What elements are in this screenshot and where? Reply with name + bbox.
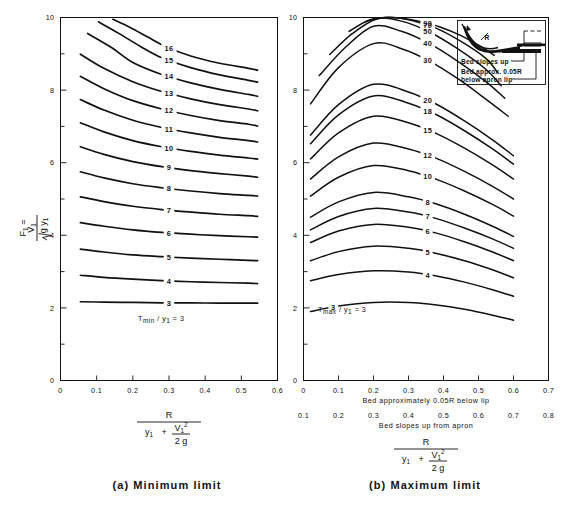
panel-a-xlabel: R y1 + V12 2 g	[137, 410, 201, 446]
curve-label: 4	[167, 277, 172, 286]
panel-a-ylabel-fraction: V1 g y1	[26, 215, 52, 241]
xtick-label-lower: 0.7	[508, 411, 519, 420]
panel-b-family-label: Tmax / y1 = 3	[318, 305, 366, 315]
curve-label: 10	[165, 144, 174, 153]
xlabel-R-b: R	[423, 437, 430, 447]
ylabel-gy-sub: 1	[42, 217, 49, 221]
xtick-label-lower: 0.2	[333, 411, 344, 420]
xtick-label: 0.1	[91, 386, 102, 395]
curve-label: 7	[167, 206, 171, 215]
xlabel-R: R	[166, 410, 173, 420]
curve-label: 4	[426, 271, 431, 280]
ylabel-gy: g y	[38, 221, 48, 234]
panel-a-curve-labels: 345678910111213141516	[165, 44, 174, 308]
curve-label: 14	[165, 72, 174, 81]
ytick-label: 2	[50, 304, 54, 313]
ytick-label: 6	[50, 158, 54, 167]
curve-label: 12	[165, 106, 174, 115]
ytick-label: 8	[50, 86, 54, 95]
panel-b: 0246810 00.10.20.30.40.50.60.7 0.10.20.3…	[289, 13, 554, 491]
xtick-label: 0.4	[200, 386, 211, 395]
xtick-label-upper: 0.6	[508, 386, 519, 395]
xtick-label-lower: 0.3	[368, 411, 379, 420]
svg-text:+: +	[418, 454, 423, 464]
xtick-label: 0.3	[163, 386, 174, 395]
svg-text:V12: V12	[174, 421, 188, 434]
panel-a-xtick-labels: 00.10.20.30.40.50.6	[58, 386, 283, 395]
figure-svg: 0246810 00.10.20.30.40.50.6 345678910111…	[0, 0, 565, 516]
curve-label: 15	[165, 56, 174, 65]
xtick-label-upper: 0.4	[438, 386, 449, 395]
curve-label: 3	[167, 299, 171, 308]
ytick-label: 0	[293, 376, 297, 385]
curve-label: 8	[426, 198, 430, 207]
panel-b-caption: (b) Maximum limit	[369, 479, 481, 491]
panel-b-xtick-labels-lower: 0.10.20.30.40.50.60.70.8	[298, 411, 554, 420]
xtick-label-lower: 0.5	[438, 411, 449, 420]
inset-leader-1	[511, 53, 524, 61]
curve	[311, 84, 514, 156]
svg-text:2 g: 2 g	[175, 436, 188, 446]
curve	[311, 165, 514, 216]
ytick-label: 2	[293, 304, 297, 313]
curve-label: 18	[423, 107, 432, 116]
curve-label: 6	[167, 229, 171, 238]
curve-label: 30	[423, 56, 432, 65]
inset-line2: Bed approx. 0.05R	[461, 68, 522, 76]
curve-label: 40	[423, 39, 432, 48]
ytick-label: 6	[293, 158, 297, 167]
ytick-label: 0	[50, 376, 54, 385]
xtick-label-upper: 0.5	[473, 386, 484, 395]
panel-b-axis-caption-upper: Bed approximately 0.05R below lip	[362, 396, 489, 405]
panel-a: 0246810 00.10.20.30.40.50.6 345678910111…	[18, 13, 283, 491]
xtick-label-upper: 0.7	[543, 386, 554, 395]
svg-text:+: +	[161, 427, 166, 437]
xtick-label-lower: 0.6	[473, 411, 484, 420]
panel-b-xtick-labels-upper: 00.10.20.30.40.50.60.7	[301, 386, 554, 395]
svg-text:g y1: g y1	[38, 217, 49, 233]
xtick-label-lower: 0.8	[543, 411, 554, 420]
panel-b-inset: R Bed slopes up Bed approx. 0.05R below …	[458, 21, 546, 85]
ylabel-V-sub: 1	[30, 223, 37, 227]
xtick-label-upper: 0.2	[368, 386, 379, 395]
xtick-label-lower: 0.4	[403, 411, 414, 420]
ytick-label: 8	[293, 86, 297, 95]
svg-text:y1: y1	[145, 427, 154, 438]
panel-a-family-label: Tmin / y1 = 3	[138, 314, 185, 324]
curve	[311, 271, 514, 297]
curve-label: 5	[167, 253, 171, 262]
curve-label: 10	[423, 172, 432, 181]
inset-line3: below apron lip	[461, 76, 512, 84]
curve	[311, 116, 514, 179]
panel-a-caption: (a) Minimum limit	[112, 479, 221, 491]
xtick-label-upper: 0.1	[333, 386, 344, 395]
curve-label: 11	[165, 125, 173, 134]
inset-apron	[502, 49, 541, 53]
xtick-label: 0.2	[127, 386, 138, 395]
ylabel-eq: =	[18, 220, 28, 225]
inset-line1: Bed slopes up	[461, 58, 509, 66]
panel-b-axis-caption-lower: Bed slopes up from apron	[379, 421, 473, 430]
curve-label: 9	[167, 163, 171, 172]
xtick-label: 0.6	[272, 386, 283, 395]
curve	[311, 96, 514, 165]
curve-label: 90	[423, 19, 432, 28]
curve-label: 6	[426, 227, 430, 236]
panel-a-ytick-labels: 0246810	[46, 13, 55, 385]
svg-text:2 g: 2 g	[432, 463, 445, 473]
curve-label: 12	[423, 151, 432, 160]
svg-text:y1: y1	[402, 454, 411, 465]
curve-label: 16	[165, 44, 174, 53]
xtick-label-upper: 0	[301, 386, 305, 395]
figure-root: 0246810 00.10.20.30.40.50.6 345678910111…	[0, 0, 565, 516]
curve	[80, 76, 257, 126]
xtick-label: 0	[58, 386, 62, 395]
curve-label: 20	[423, 96, 432, 105]
panel-b-ytick-labels: 0246810	[289, 13, 298, 385]
panel-b-xlabel: R y1 + V12 2 g	[394, 437, 458, 473]
ytick-label: 10	[289, 13, 298, 22]
ytick-label: 10	[46, 13, 55, 22]
inset-bed-level	[517, 44, 545, 47]
inset-flow-arrow-icon	[466, 25, 471, 31]
xtick-label-lower: 0.1	[298, 411, 309, 420]
